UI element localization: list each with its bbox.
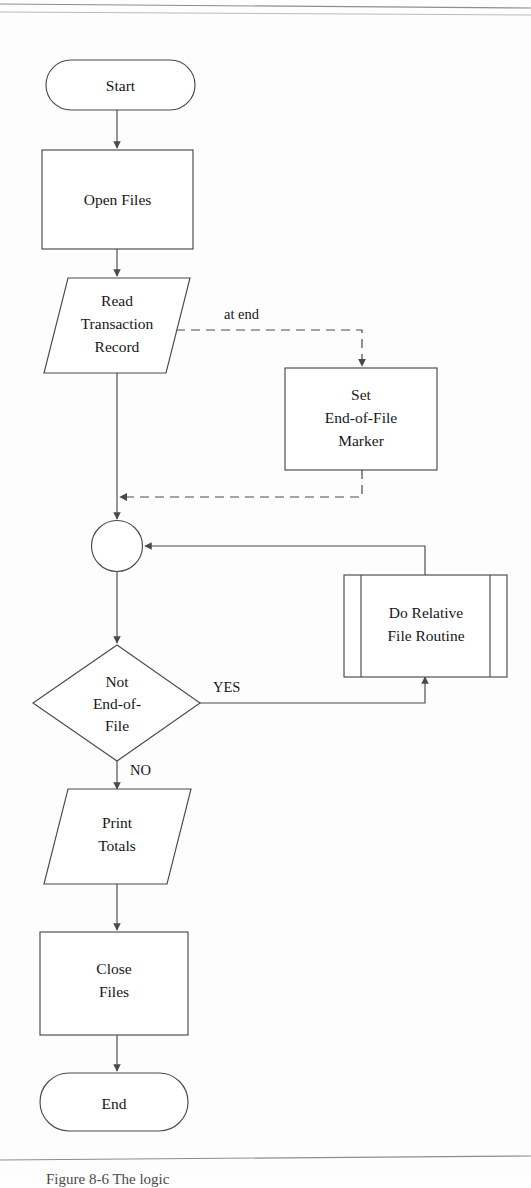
not-eof-label-line1: Not	[105, 673, 129, 690]
page-rule-bottom	[0, 1156, 531, 1160]
close-files-label-line1: Close	[96, 960, 131, 977]
connector-circle-shape	[92, 521, 143, 572]
start-label: Start	[106, 77, 136, 94]
node-end[interactable]: End	[40, 1073, 188, 1131]
print-totals-label-line2: Totals	[98, 837, 136, 854]
set-eof-label-line1: Set	[351, 386, 372, 403]
node-start[interactable]: Start	[46, 60, 195, 110]
node-connector-circle[interactable]	[92, 521, 143, 572]
open-files-label: Open Files	[84, 191, 152, 208]
edge-do-relative-to-connector	[145, 546, 425, 575]
edge-label-no: NO	[130, 762, 151, 778]
node-set-end-of-file-marker[interactable]: Set End-of-File Marker	[285, 368, 437, 470]
page-rule-top	[0, 4, 531, 15]
node-read-transaction-record[interactable]: Read Transaction Record	[44, 278, 190, 373]
do-relative-predefined-shape	[344, 575, 507, 677]
node-open-files[interactable]: Open Files	[42, 150, 193, 249]
not-eof-label-line2: End-of-	[93, 695, 141, 712]
print-totals-label-line1: Print	[102, 814, 133, 831]
read-transaction-label-line2: Transaction	[81, 315, 154, 332]
not-eof-label-line3: File	[105, 717, 129, 734]
read-transaction-label-line3: Record	[95, 338, 140, 355]
node-do-relative-file-routine[interactable]: Do Relative File Routine	[344, 575, 507, 677]
edge-set-eof-return	[120, 470, 362, 497]
node-print-totals[interactable]: Print Totals	[44, 789, 191, 884]
do-relative-label-line1: Do Relative	[389, 604, 464, 621]
set-eof-label-line3: Marker	[338, 432, 384, 449]
set-eof-label-line2: End-of-File	[325, 409, 397, 426]
figure-caption: Figure 8-6 The logic	[46, 1171, 169, 1188]
node-not-end-of-file-decision[interactable]: Not End-of- File	[33, 645, 200, 761]
edge-label-at-end: at end	[224, 306, 260, 322]
edge-label-yes: YES	[213, 679, 240, 695]
end-label: End	[102, 1095, 127, 1112]
read-transaction-label-line1: Read	[101, 292, 133, 309]
edge-at-end-to-set-eof	[176, 330, 362, 366]
close-files-label-line2: Files	[99, 983, 129, 1000]
do-relative-label-line2: File Routine	[387, 627, 464, 644]
node-close-files[interactable]: Close Files	[40, 932, 188, 1035]
